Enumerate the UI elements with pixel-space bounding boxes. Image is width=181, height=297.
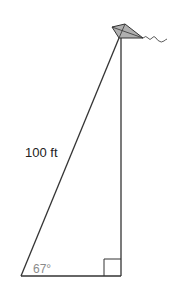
angle-label: 67° xyxy=(33,262,51,276)
hypotenuse-label: 100 ft xyxy=(25,145,58,160)
kite-tail xyxy=(143,37,167,43)
right-angle-marker xyxy=(104,259,121,276)
kite-icon xyxy=(112,24,167,42)
